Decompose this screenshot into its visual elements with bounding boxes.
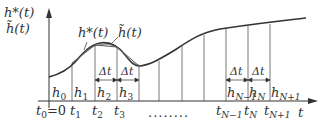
t-label-n-plus-1: tN+1 bbox=[264, 104, 290, 120]
ellipsis: ........ bbox=[148, 106, 189, 119]
t-label-0: t0=0 bbox=[36, 104, 66, 120]
t-label-2: t2 bbox=[92, 104, 103, 120]
t-label-n-minus-1: tN−1 bbox=[216, 104, 242, 120]
delta-t-label-1: Δt bbox=[99, 66, 111, 77]
h-label-0: h0 bbox=[52, 86, 66, 102]
x-axis-arrow-icon bbox=[308, 98, 318, 104]
y-axis-arrow-icon bbox=[46, 8, 52, 18]
h-label-2: h2 bbox=[97, 86, 111, 102]
h-label-3: h3 bbox=[119, 86, 133, 102]
y-axis-label-approx: h̃(t) bbox=[6, 22, 30, 35]
delta-t-label-4: Δt bbox=[252, 66, 264, 77]
delta-t-label-3: Δt bbox=[230, 66, 242, 77]
approx-curve-label: h̃(t) bbox=[118, 26, 142, 39]
t-label-3: t3 bbox=[114, 104, 125, 120]
x-axis-label: t bbox=[298, 106, 303, 119]
h-label-n-plus-1: hN+1 bbox=[271, 86, 301, 102]
h-label-1: h1 bbox=[74, 86, 88, 102]
delta-t-label-2: Δt bbox=[121, 66, 133, 77]
true-curve-label: h*(t) bbox=[78, 26, 108, 39]
h-label-n: hN bbox=[249, 86, 265, 102]
t-label-n: tN bbox=[244, 104, 257, 120]
approx-curve-smooth bbox=[74, 44, 139, 65]
y-axis-label-true: h*(t) bbox=[4, 6, 34, 19]
diagram: h*(t) h̃(t) h*(t) h̃(t) Δt Δt Δt Δt h0 h… bbox=[0, 0, 325, 124]
true-curve-leader bbox=[84, 42, 87, 50]
delta-arrows bbox=[95, 78, 270, 82]
t-label-1: t1 bbox=[70, 104, 81, 120]
